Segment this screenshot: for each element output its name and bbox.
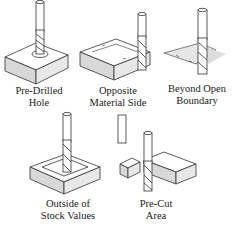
panel-outside-of-stock-values: Outside of Stock Values — [20, 112, 120, 229]
caption-beyond-open-boundary: Beyond Open Boundary — [158, 83, 236, 107]
caption-line-1: Opposite — [76, 85, 160, 97]
caption-line-1: Pre-Cut — [118, 198, 194, 210]
caption-outside-of-stock-values: Outside of Stock Values — [20, 198, 116, 222]
caption-opposite-material-side: Opposite Material Side — [76, 85, 160, 109]
panel-beyond-open-boundary: Beyond Open Boundary — [158, 0, 236, 110]
caption-line-2: Area — [118, 210, 194, 222]
panel-pre-drilled-hole: Pre-Drilled Hole — [0, 0, 78, 110]
caption-line-2: Boundary — [158, 95, 236, 107]
caption-line-1: Beyond Open — [158, 83, 236, 95]
panel-opposite-material-side: Opposite Material Side — [76, 0, 160, 110]
panel-pre-cut-area: Pre-Cut Area — [118, 112, 210, 229]
caption-line-2: Material Side — [76, 97, 160, 109]
caption-pre-cut-area: Pre-Cut Area — [118, 198, 194, 222]
caption-line-1: Pre-Drilled — [0, 85, 78, 97]
caption-line-2: Hole — [0, 97, 78, 109]
caption-pre-drilled-hole: Pre-Drilled Hole — [0, 85, 78, 109]
caption-line-1: Outside of — [20, 198, 116, 210]
caption-line-2: Stock Values — [20, 210, 116, 222]
